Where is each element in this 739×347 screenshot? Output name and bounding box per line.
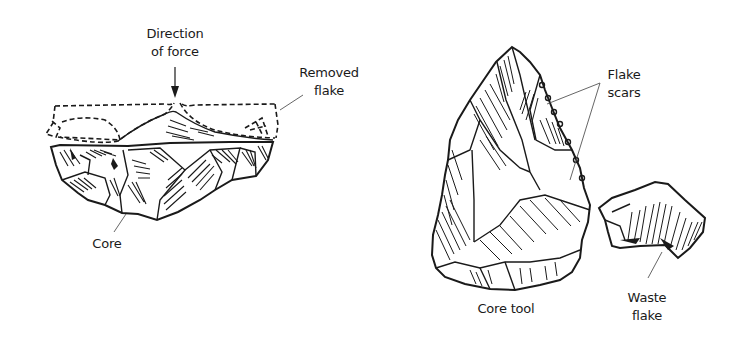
force-arrow: [171, 67, 179, 98]
flake-scars-line1: Flake: [600, 67, 648, 83]
direction-of-force-line1: Direction: [138, 26, 212, 42]
core-drawing: [51, 111, 273, 220]
core-tool-drawing: [432, 47, 590, 290]
flake-scars-line2: scars: [600, 85, 648, 101]
waste-flake-line2: flake: [618, 308, 676, 324]
core-label-text: Core: [84, 236, 130, 252]
removed-flake-line2: flake: [292, 83, 366, 99]
core-label: Core: [84, 236, 130, 252]
waste-flake-drawing: [599, 182, 705, 258]
leader-core: [114, 214, 126, 232]
core-tool-label: Core tool: [466, 301, 546, 317]
removed-flake-label: Removed flake: [292, 65, 366, 99]
direction-of-force-label: Direction of force: [138, 26, 212, 60]
stone-tool-diagram: Direction of force Removed flake Core Fl…: [0, 0, 739, 347]
waste-flake-line1: Waste: [618, 290, 676, 306]
waste-flake-label: Waste flake: [618, 290, 676, 324]
core-tool-label-text: Core tool: [466, 301, 546, 317]
leader-waste-flake: [648, 252, 662, 278]
flake-scars-label: Flake scars: [600, 67, 648, 101]
direction-of-force-line2: of force: [138, 44, 212, 60]
removed-flake-line1: Removed: [292, 65, 366, 81]
